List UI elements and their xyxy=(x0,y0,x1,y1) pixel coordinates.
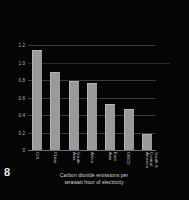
plot-area: 1.21.00.80.60.40.20 xyxy=(28,45,156,150)
y-tick-label: 1.0 xyxy=(19,60,25,65)
x-tick-label-line: South & xyxy=(153,152,158,168)
bar-cis xyxy=(32,50,42,150)
bar-south-central-america xyxy=(142,134,152,150)
y-tick-label: 0 xyxy=(22,148,25,153)
bar-slot xyxy=(101,45,119,150)
x-tick-label-line: OECD xyxy=(126,152,131,165)
page-number: 8 xyxy=(4,166,10,178)
x-label-slot: China xyxy=(46,151,64,173)
x-tick-label: China xyxy=(52,152,57,163)
x-tick-label-line: Asia xyxy=(71,152,76,163)
x-tick-label: SouthAsia xyxy=(71,152,81,163)
y-tick-label: 0.6 xyxy=(19,95,25,100)
x-label-slot: South &CentralAmerica xyxy=(138,151,156,173)
bar-slot xyxy=(28,45,46,150)
y-tick-label: 0.8 xyxy=(19,78,25,83)
bar-slot xyxy=(120,45,138,150)
x-tick-label-line: America xyxy=(144,152,149,168)
bar-slot xyxy=(138,45,156,150)
x-tick-label: South &CentralAmerica xyxy=(144,152,158,168)
x-tick-label: CIS xyxy=(34,152,39,159)
x-tick-label: OECD xyxy=(126,152,131,165)
x-tick-label: EastAsia xyxy=(107,152,117,161)
caption-line-2: terawatt hour of electricity xyxy=(24,179,164,186)
x-label-slot: SouthAsia xyxy=(65,151,83,173)
x-label-slot: OECD xyxy=(120,151,138,173)
bar-oecd xyxy=(124,109,134,150)
bar-series xyxy=(28,45,156,150)
x-label-slot: Africa xyxy=(83,151,101,173)
figure-caption: Carbon dioxide emissions per terawatt ho… xyxy=(24,172,164,186)
bar-china xyxy=(50,72,60,150)
bar-slot xyxy=(46,45,64,150)
bar-south-asia xyxy=(69,81,79,150)
bar-africa xyxy=(87,83,97,151)
chart-figure: 8 1.21.00.80.60.40.20 CISChinaSouthAsiaA… xyxy=(0,0,189,200)
y-tick-label: 0.4 xyxy=(19,113,25,118)
x-tick-label-line: China xyxy=(52,152,57,163)
bar-slot xyxy=(65,45,83,150)
y-tick-label: 1.2 xyxy=(19,43,25,48)
x-tick-label-line: CIS xyxy=(34,152,39,159)
x-tick-label-line: Asia xyxy=(107,152,112,161)
caption-line-1: Carbon dioxide emissions per xyxy=(24,172,164,179)
x-tick-label: Africa xyxy=(89,152,94,163)
bar-slot xyxy=(83,45,101,150)
x-label-slot: EastAsia xyxy=(101,151,119,173)
x-tick-label-line: Africa xyxy=(89,152,94,163)
x-label-slot: CIS xyxy=(28,151,46,173)
y-tick-label: 0.2 xyxy=(19,130,25,135)
x-axis-labels: CISChinaSouthAsiaAfricaEastAsiaOECDSouth… xyxy=(28,151,156,173)
bar-east-asia xyxy=(105,104,115,150)
